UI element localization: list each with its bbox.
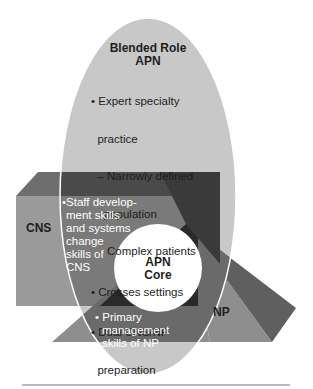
np-skills-line: • Primary bbox=[95, 311, 195, 324]
ellipse-item: • Crosses settings bbox=[91, 286, 221, 299]
np-skills: • Primary management skills of NP bbox=[95, 311, 195, 350]
ellipse-item: – Narrowly defined bbox=[91, 170, 221, 183]
cns-skills-line: •Staff develop- bbox=[62, 196, 162, 209]
np-skills-line: skills of NP bbox=[95, 337, 195, 350]
np-skills-line: management bbox=[95, 324, 195, 337]
ellipse-title-line2: APN bbox=[88, 55, 208, 68]
cns-skills-line: and systems bbox=[62, 222, 162, 235]
cns-skills-line: change bbox=[62, 235, 162, 248]
ellipse-title: Blended Role APN bbox=[88, 42, 208, 68]
ellipse-item: practice bbox=[91, 133, 221, 146]
cns-skills-line: ment skills bbox=[62, 209, 162, 222]
apn-core-line2: Core bbox=[128, 269, 188, 282]
cns-label: CNS bbox=[26, 222, 51, 234]
apn-core-label: APN Core bbox=[128, 256, 188, 282]
ellipse-item: preparation bbox=[91, 364, 221, 377]
ellipse-item: • Expert specialty bbox=[91, 95, 221, 108]
np-label: NP bbox=[213, 306, 230, 318]
